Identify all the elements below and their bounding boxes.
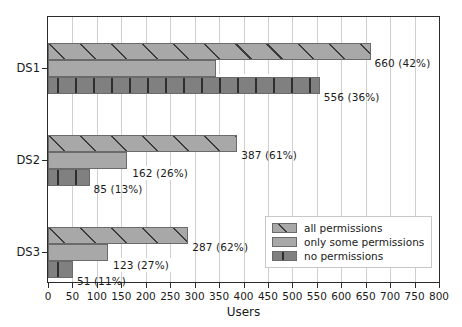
bar bbox=[48, 43, 371, 60]
bar-value-label: 387 (61%) bbox=[241, 149, 297, 161]
legend-swatch-some bbox=[272, 237, 297, 247]
x-tick-mark bbox=[121, 283, 122, 288]
x-tick-mark bbox=[415, 283, 416, 288]
x-tick-mark bbox=[390, 283, 391, 288]
x-tick-label: 800 bbox=[419, 290, 459, 302]
bar bbox=[48, 60, 216, 77]
y-tick-mark bbox=[42, 252, 47, 253]
x-tick-mark bbox=[317, 283, 318, 288]
bar bbox=[48, 152, 127, 169]
legend-swatch-all bbox=[272, 223, 297, 233]
legend-swatch-none bbox=[272, 251, 297, 261]
bar bbox=[48, 244, 108, 261]
bar-value-label: 287 (62%) bbox=[192, 241, 248, 253]
bar-value-label: 556 (36%) bbox=[324, 91, 380, 103]
x-tick-mark bbox=[268, 283, 269, 288]
bar-value-label: 123 (27%) bbox=[110, 258, 171, 272]
bar bbox=[48, 135, 237, 152]
y-tick-label-ds3: DS3 bbox=[0, 245, 40, 259]
bar-value-label: 162 (26%) bbox=[129, 166, 190, 180]
bar bbox=[48, 169, 90, 186]
x-tick-mark bbox=[292, 283, 293, 288]
legend-row: no permissions bbox=[272, 249, 424, 263]
legend-row: only some permissions bbox=[272, 235, 424, 249]
x-tick-mark bbox=[219, 283, 220, 288]
x-tick-mark bbox=[146, 283, 147, 288]
bar bbox=[48, 261, 73, 278]
x-tick-mark bbox=[366, 283, 367, 288]
legend-label: all permissions bbox=[304, 222, 382, 234]
legend-row: all permissions bbox=[272, 221, 424, 235]
x-tick-mark bbox=[195, 283, 196, 288]
bar bbox=[48, 77, 320, 94]
x-tick-mark bbox=[97, 283, 98, 288]
y-tick-mark bbox=[42, 160, 47, 161]
bar bbox=[48, 227, 188, 244]
y-tick-mark bbox=[42, 68, 47, 69]
x-axis-title: Users bbox=[47, 305, 440, 319]
legend-label: no permissions bbox=[304, 250, 383, 262]
legend: all permissionsonly some permissionsno p… bbox=[265, 216, 432, 268]
x-tick-mark bbox=[439, 283, 440, 288]
x-tick-mark bbox=[48, 283, 49, 288]
bar-chart-figure: 660 (42%)344 (22%)556 (36%)387 (61%)162 … bbox=[0, 0, 462, 327]
legend-label: only some permissions bbox=[304, 236, 424, 248]
x-tick-mark bbox=[341, 283, 342, 288]
x-tick-mark bbox=[170, 283, 171, 288]
x-tick-mark bbox=[72, 283, 73, 288]
y-tick-label-ds2: DS2 bbox=[0, 153, 40, 167]
y-tick-label-ds1: DS1 bbox=[0, 61, 40, 75]
bar-value-label: 51 (11%) bbox=[77, 275, 126, 287]
bar-value-label: 660 (42%) bbox=[375, 57, 431, 69]
bar-value-label: 85 (13%) bbox=[94, 183, 143, 195]
x-tick-mark bbox=[244, 283, 245, 288]
